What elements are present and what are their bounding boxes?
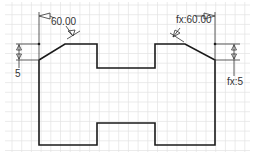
angle-dimension-left[interactable]: 60.00 xyxy=(39,12,80,60)
point-icon xyxy=(38,43,41,46)
sketch-canvas[interactable]: 60.00 fx:60.00 5 xyxy=(0,0,258,155)
sketch-svg: 60.00 fx:60.00 5 xyxy=(0,0,258,155)
height-dimension-left[interactable]: 5 xyxy=(15,43,40,79)
arrowhead-icon xyxy=(39,13,50,19)
height-dimension-right[interactable]: fx:5 xyxy=(214,43,244,87)
angle-dimension-right-value[interactable]: fx:60.00 xyxy=(176,14,212,25)
height-dimension-left-value[interactable]: 5 xyxy=(15,68,21,79)
sketch-profile[interactable] xyxy=(39,44,215,145)
point-icon xyxy=(214,43,217,46)
grid xyxy=(5,2,250,152)
height-dimension-right-value[interactable]: fx:5 xyxy=(227,76,244,87)
angle-dimension-left-value[interactable]: 60.00 xyxy=(51,16,76,27)
